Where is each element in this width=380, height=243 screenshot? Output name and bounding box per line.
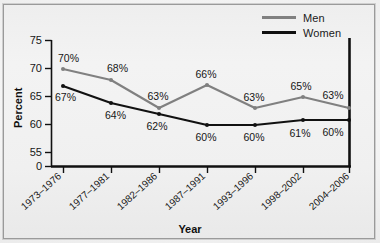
- value-label-men-6: 63%: [322, 89, 343, 101]
- value-label-women-1: 64%: [105, 109, 126, 121]
- plot-area: 75 70 65 60 55 0 Percent: [0, 0, 380, 243]
- data-point-women-5: [301, 118, 305, 122]
- data-point-women-2: [157, 112, 161, 116]
- value-label-women-3: 60%: [195, 131, 216, 143]
- chart-screenshot: Men Women 75 70 65 60 55 0 Percent: [0, 0, 380, 243]
- data-point-men-3: [205, 83, 209, 87]
- y-tick-label-60: 60: [30, 118, 42, 130]
- value-label-women-0: 67%: [55, 91, 76, 103]
- value-label-men-0: 70%: [58, 52, 79, 64]
- x-category-label-4: 1993–1996: [211, 170, 256, 212]
- chart-svg: 75 70 65 60 55 0 Percent: [0, 0, 380, 243]
- y-tick-label-0: 0: [36, 160, 42, 172]
- data-point-men-1: [109, 78, 113, 82]
- data-point-men-0: [61, 67, 65, 71]
- x-category-label-5: 1998–2002: [259, 170, 304, 212]
- value-label-women-4: 60%: [243, 131, 264, 143]
- value-label-women-5: 61%: [289, 127, 310, 139]
- y-tick-label-75: 75: [30, 34, 42, 46]
- value-label-men-4: 63%: [243, 91, 264, 103]
- data-point-women-6: [347, 118, 351, 122]
- value-label-men-1: 68%: [107, 62, 128, 74]
- y-tick-label-70: 70: [30, 62, 42, 74]
- y-axis-title: Percent: [12, 87, 24, 128]
- y-tick-label-65: 65: [30, 90, 42, 102]
- value-label-men-2: 63%: [147, 90, 168, 102]
- x-category-label-2: 1982–1986: [115, 170, 160, 212]
- data-point-men-2: [157, 106, 161, 110]
- x-category-label-0: 1973–1976: [19, 170, 64, 212]
- data-point-men-4: [253, 106, 257, 110]
- y-tick-label-55: 55: [30, 146, 42, 158]
- x-category-label-1: 1977–1981: [67, 170, 112, 212]
- x-category-label-6: 2004–2006: [307, 170, 352, 212]
- data-point-women-1: [109, 101, 113, 105]
- x-category-label-3: 1987–1991: [163, 170, 208, 212]
- data-point-women-0: [61, 84, 65, 88]
- value-label-men-3: 66%: [195, 68, 216, 80]
- data-point-women-4: [253, 123, 257, 127]
- data-point-men-5: [301, 95, 305, 99]
- data-point-men-6: [347, 106, 351, 110]
- value-label-men-5: 65%: [290, 80, 311, 92]
- value-label-women-6: 60%: [322, 126, 343, 138]
- x-axis-title: Year: [178, 223, 202, 235]
- value-label-women-2: 62%: [146, 120, 167, 132]
- data-point-women-3: [205, 123, 209, 127]
